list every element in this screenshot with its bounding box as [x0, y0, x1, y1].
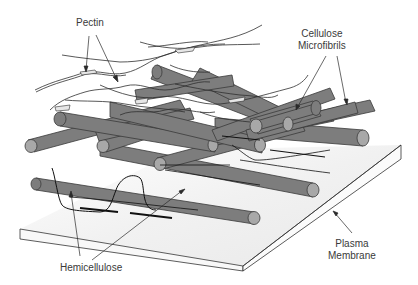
label-hemicellulose: Hemicellulose: [60, 262, 122, 274]
label-plasma-membrane: Plasma Membrane: [328, 238, 376, 262]
label-cellulose-line2: Microfibrils: [298, 40, 346, 52]
label-membrane-line1: Plasma: [328, 238, 376, 250]
cell-wall-diagram: Pectin Cellulose Microfibrils Hemicellul…: [0, 0, 418, 285]
label-cellulose-line1: Cellulose: [298, 28, 346, 40]
label-cellulose-microfibrils: Cellulose Microfibrils: [298, 28, 346, 52]
label-pectin: Pectin: [76, 17, 104, 29]
label-membrane-line2: Membrane: [328, 250, 376, 262]
